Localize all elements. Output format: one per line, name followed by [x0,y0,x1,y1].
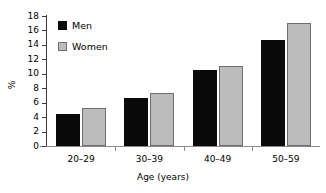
y-axis-tick-label: 14 [9,40,39,49]
x-axis-tick-label: 30–39 [114,154,184,165]
y-axis-tick-label: 4 [9,113,39,122]
y-axis-tick [42,74,46,75]
bar-women-50–59 [287,23,311,146]
y-axis-tick [42,30,46,31]
y-axis-tick-label: 6 [9,98,39,107]
bar-chart: % 024681012141618 20–2930–3940–4950–59 A… [0,0,326,193]
legend: Men Women [58,19,108,61]
y-axis-tick [42,88,46,89]
legend-swatch-men-icon [58,21,67,30]
y-axis-tick-label: 8 [9,84,39,93]
bar-men-20–29 [56,114,80,146]
legend-label-women: Women [72,42,108,52]
x-axis-tick [184,147,185,151]
x-axis-tick [115,147,116,151]
y-axis-tick [42,117,46,118]
bar-men-50–59 [261,40,285,146]
y-axis-tick [42,45,46,46]
bar-women-40–49 [219,66,243,146]
bar-women-30–39 [150,93,174,146]
legend-item-men: Men [58,19,108,32]
bar-men-40–49 [193,70,217,146]
bar-men-30–39 [124,98,148,146]
y-axis-tick-label: 10 [9,69,39,78]
y-axis-tick [42,146,46,147]
y-axis-tick-label: 16 [9,26,39,35]
legend-swatch-women-icon [58,42,67,51]
bar-women-20–29 [82,108,106,146]
x-axis-tick-label: 20–29 [46,154,116,165]
y-axis-tick-label: 2 [9,127,39,136]
y-axis-tick [42,59,46,60]
x-axis-tick-label: 50–59 [251,154,321,165]
y-axis-tick [42,16,46,17]
x-axis-line [40,146,320,147]
legend-item-women: Women [58,40,108,53]
y-axis-tick-label: 12 [9,55,39,64]
x-axis-tick [252,147,253,151]
y-axis-tick-label: 0 [9,142,39,151]
y-axis-tick [42,103,46,104]
x-axis-label: Age (years) [0,172,326,183]
y-axis-tick [42,132,46,133]
x-axis-tick-label: 40–49 [183,154,253,165]
y-axis-tick-label: 18 [9,12,39,21]
legend-label-men: Men [72,21,92,31]
